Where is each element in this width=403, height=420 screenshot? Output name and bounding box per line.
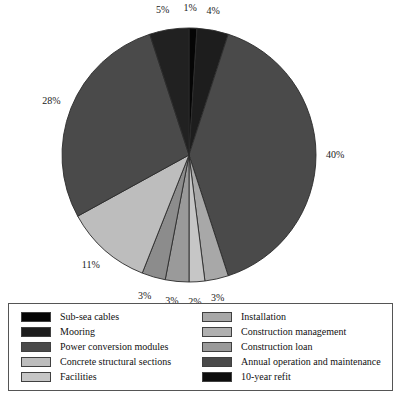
legend-color-swatch [202,357,232,367]
pie-percent-label: 3% [138,291,151,301]
legend-color-swatch [21,312,51,322]
legend-item: Concrete structural sections [21,355,198,370]
legend-item: Facilities [21,370,198,385]
legend-column-right: InstallationConstruction managementConst… [198,304,392,390]
figure-caption [4,408,399,419]
legend-item: Construction loan [202,340,392,355]
legend-item: Mooring [21,325,198,340]
legend-item: Annual operation and maintenance [202,355,392,370]
legend-column-left: Sub-sea cablesMooringPower conversion mo… [9,304,198,390]
legend-color-swatch [21,357,51,367]
legend-color-swatch [202,312,232,322]
pie-percent-label: 28% [42,96,60,106]
chart-legend: Sub-sea cablesMooringPower conversion mo… [8,303,393,391]
legend-item: Sub-sea cables [21,310,198,325]
legend-color-swatch [202,342,232,352]
legend-item-label: Power conversion modules [60,342,168,352]
legend-item-label: Concrete structural sections [60,357,171,367]
legend-color-swatch [21,327,51,337]
legend-item-label: Mooring [60,327,95,337]
legend-item: 10-year refit [202,370,392,385]
pie-chart: 1%4%40%3%2%3%3%11%28%5% [0,0,403,300]
pie-percent-label: 11% [82,260,100,270]
legend-color-swatch [21,372,51,382]
legend-item: Power conversion modules [21,340,198,355]
legend-item: Installation [202,310,392,325]
legend-item-label: 10-year refit [241,372,291,382]
legend-item-label: Sub-sea cables [60,312,119,322]
legend-color-swatch [202,372,232,382]
legend-item-label: Annual operation and maintenance [241,357,381,367]
pie-percent-label: 5% [156,5,169,15]
legend-color-swatch [21,342,51,352]
legend-item-label: Construction management [241,327,346,337]
pie-percent-label: 40% [326,150,344,160]
legend-item-label: Construction loan [241,342,312,352]
legend-item-label: Installation [241,312,286,322]
pie-percent-label: 3% [211,293,224,303]
pie-percent-label: 1% [184,3,197,13]
pie-percent-label: 4% [207,6,220,16]
legend-item: Construction management [202,325,392,340]
legend-item-label: Facilities [60,372,97,382]
legend-color-swatch [202,327,232,337]
